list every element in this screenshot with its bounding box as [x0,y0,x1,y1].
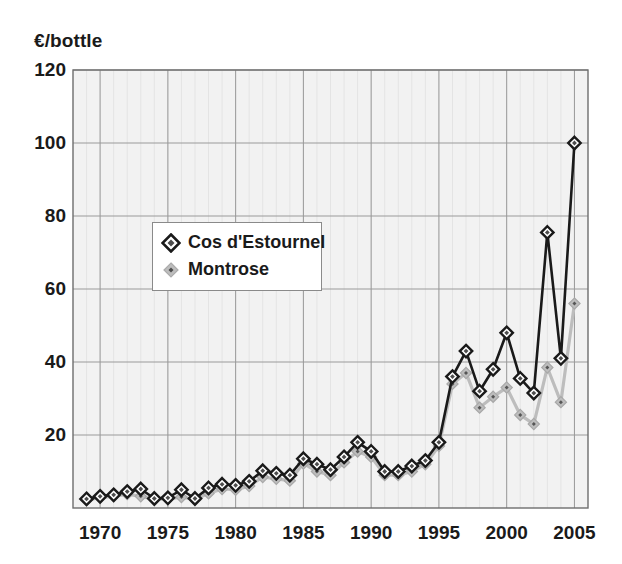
legend-item-cos-destournel: Cos d'Estournel [161,229,313,256]
x-axis-tick-labels: 19701975198019851990199520002005 [0,516,622,550]
y-tick-40: 40 [14,351,66,373]
y-tick-80: 80 [14,205,66,227]
x-tick-1985: 1985 [282,522,324,544]
diamond-filled-icon [161,260,181,280]
x-tick-2005: 2005 [553,522,595,544]
x-tick-1970: 1970 [79,522,121,544]
legend-label-montrose: Montrose [188,259,269,280]
y-tick-20: 20 [14,424,66,446]
y-tick-100: 100 [14,132,66,154]
x-tick-1980: 1980 [214,522,256,544]
price-chart: €/bottle 20406080100120 1970197519801985… [0,0,622,564]
chart-legend: Cos d'Estournel Montrose [152,222,322,291]
x-tick-1995: 1995 [418,522,460,544]
y-axis-tick-labels: 20406080100120 [8,0,66,564]
x-tick-1975: 1975 [147,522,189,544]
x-tick-1990: 1990 [350,522,392,544]
legend-label-cos-destournel: Cos d'Estournel [188,232,325,253]
diamond-outline-icon [161,233,181,253]
y-tick-60: 60 [14,278,66,300]
legend-item-montrose: Montrose [161,256,313,283]
x-tick-2000: 2000 [486,522,528,544]
y-tick-120: 120 [14,59,66,81]
